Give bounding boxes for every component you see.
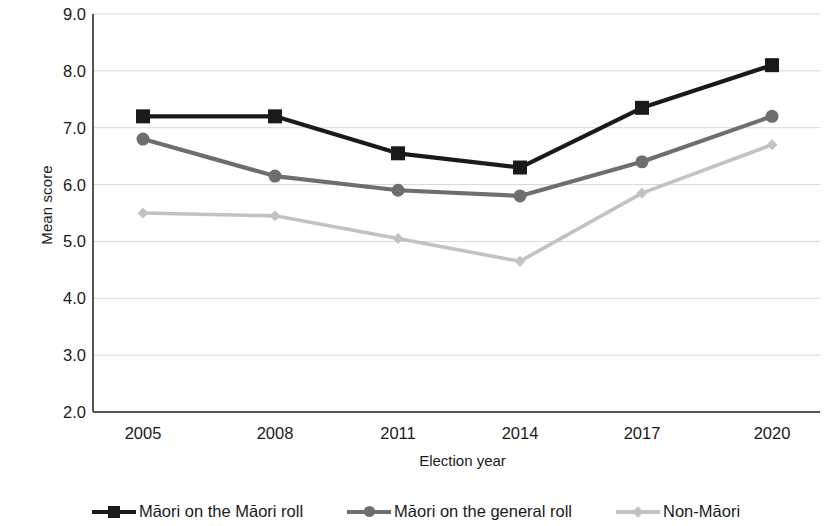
x-axis-tick-label: 2017 (607, 424, 677, 443)
x-axis-tick-label: 2005 (108, 424, 178, 443)
legend-item[interactable]: Māori on the Māori roll (92, 502, 303, 521)
series-1 (137, 110, 779, 203)
legend-marker-icon (92, 504, 136, 520)
data-point (635, 101, 649, 115)
data-point (513, 161, 527, 175)
legend-item[interactable]: Māori on the general roll (347, 502, 572, 521)
series-line (143, 65, 772, 167)
legend-square-icon (108, 506, 120, 518)
plot-area (0, 0, 832, 526)
data-point (269, 170, 282, 183)
legend-diamond-icon (632, 506, 643, 517)
data-point (765, 58, 779, 72)
data-point (138, 208, 149, 219)
legend-circle-icon (364, 506, 375, 517)
data-point (136, 109, 150, 123)
line-chart: Mean score 9.08.07.06.05.04.03.02.0 2005… (0, 0, 832, 526)
x-axis-tick-label: 2020 (737, 424, 807, 443)
data-point (636, 155, 649, 168)
data-point (393, 233, 404, 244)
data-point (514, 189, 527, 202)
x-axis-title: Election year (93, 452, 832, 469)
gridlines (93, 14, 820, 355)
data-point (270, 210, 281, 221)
legend-marker-icon (616, 504, 660, 520)
x-axis-tick-label: 2011 (363, 424, 433, 443)
series-line (143, 116, 772, 196)
series-0 (136, 58, 779, 174)
x-axis-tick-label: 2008 (240, 424, 310, 443)
data-point (268, 109, 282, 123)
data-point (766, 110, 779, 123)
legend-label: Māori on the general roll (393, 502, 572, 521)
legend-item[interactable]: Non-Māori (616, 502, 740, 521)
legend-label: Non-Māori (662, 502, 740, 521)
data-point (137, 133, 150, 146)
data-point (767, 139, 778, 150)
legend-marker-icon (347, 504, 391, 520)
chart-legend: Māori on the Māori rollMāori on the gene… (0, 497, 832, 526)
data-point (391, 146, 405, 160)
x-axis-tick-label: 2014 (485, 424, 555, 443)
data-point (392, 184, 405, 197)
legend-label: Māori on the Māori roll (138, 502, 303, 521)
